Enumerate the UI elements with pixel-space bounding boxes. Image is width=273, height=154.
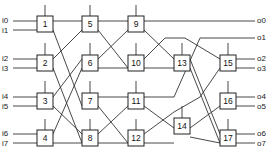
interconnect-stage1 [53, 21, 82, 143]
node-15: 15 [220, 55, 236, 71]
svg-text:13: 13 [177, 58, 187, 68]
node-9: 9 [128, 16, 144, 32]
svg-text:o5: o5 [257, 102, 266, 111]
svg-text:i3: i3 [2, 64, 9, 73]
svg-text:i5: i5 [2, 102, 9, 111]
node-1: 1 [37, 16, 53, 32]
svg-text:1: 1 [43, 19, 48, 29]
node-16: 16 [220, 93, 236, 109]
output-lines [236, 59, 255, 143]
svg-text:4: 4 [43, 133, 48, 143]
network-svg: 1 2 3 4 5 6 7 8 9 10 11 12 13 14 15 16 1… [0, 0, 273, 154]
svg-text:o0: o0 [257, 16, 266, 25]
svg-text:i6: i6 [2, 129, 9, 138]
svg-text:10: 10 [131, 58, 141, 68]
node-2: 2 [37, 55, 53, 71]
svg-text:o7: o7 [257, 139, 266, 148]
interconnect-stage4 [190, 59, 220, 143]
input-labels: i0 i1 i2 i3 i4 i5 i6 i7 [2, 16, 9, 148]
node-12: 12 [128, 130, 144, 146]
node-6: 6 [82, 55, 98, 71]
svg-text:9: 9 [134, 19, 139, 29]
svg-text:7: 7 [88, 96, 93, 106]
svg-text:o3: o3 [257, 64, 266, 73]
svg-text:5: 5 [88, 19, 93, 29]
node-8: 8 [82, 130, 98, 146]
svg-text:i0: i0 [2, 16, 9, 25]
node-4: 4 [37, 130, 53, 146]
svg-text:17: 17 [223, 133, 233, 143]
node-3: 3 [37, 93, 53, 109]
node-17: 17 [220, 130, 236, 146]
svg-text:11: 11 [132, 96, 141, 106]
svg-text:i1: i1 [2, 26, 9, 35]
svg-text:3: 3 [43, 96, 48, 106]
svg-text:o6: o6 [257, 129, 266, 138]
svg-text:i2: i2 [2, 54, 9, 63]
interconnect-stage2 [98, 21, 128, 143]
svg-text:i7: i7 [2, 139, 9, 148]
svg-text:o4: o4 [257, 92, 266, 101]
node-13: 13 [174, 55, 190, 71]
svg-text:o1: o1 [257, 33, 266, 42]
input-lines [13, 21, 37, 143]
output-labels: o0 o1 o2 o3 o4 o5 o6 o7 [257, 16, 266, 148]
node-5: 5 [82, 16, 98, 32]
svg-text:6: 6 [88, 58, 93, 68]
svg-text:14: 14 [177, 121, 187, 131]
node-11: 11 [128, 93, 144, 109]
svg-text:i4: i4 [2, 92, 9, 101]
svg-text:16: 16 [223, 96, 233, 106]
svg-text:12: 12 [131, 133, 141, 143]
svg-text:15: 15 [223, 58, 233, 68]
network-diagram: 1 2 3 4 5 6 7 8 9 10 11 12 13 14 15 16 1… [0, 0, 273, 154]
svg-text:o2: o2 [257, 54, 266, 63]
svg-text:8: 8 [88, 133, 93, 143]
node-10: 10 [128, 55, 144, 71]
node-14: 14 [174, 118, 190, 134]
svg-text:2: 2 [43, 58, 48, 68]
node-7: 7 [82, 93, 98, 109]
